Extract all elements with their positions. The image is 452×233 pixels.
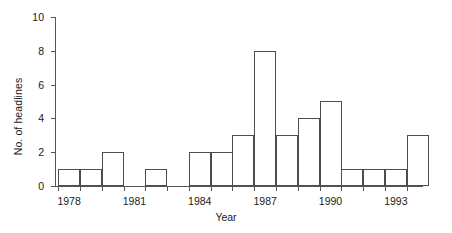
bars-group <box>56 17 422 186</box>
x-tick-mark <box>407 187 408 191</box>
plot-area: 0246810 197819811984198719901993 <box>56 17 422 186</box>
x-tick-label: 1984 <box>170 195 230 207</box>
y-tick-label: 4 <box>4 113 44 123</box>
x-tick-mark <box>276 187 277 191</box>
bar <box>407 135 429 186</box>
y-tick-label: 6 <box>4 80 44 90</box>
bar <box>320 101 342 186</box>
x-tick-mark <box>320 187 321 191</box>
x-tick-mark <box>80 187 81 191</box>
x-tick-label: 1993 <box>366 195 426 207</box>
x-tick-mark <box>385 187 386 191</box>
x-tick-mark <box>363 187 364 191</box>
x-tick-mark <box>341 187 342 191</box>
bar <box>385 169 407 186</box>
y-tick-mark <box>51 17 55 18</box>
y-tick-label: 2 <box>4 147 44 157</box>
x-tick-mark <box>254 187 255 191</box>
bar <box>145 169 167 186</box>
y-tick-mark <box>51 152 55 153</box>
x-tick-mark <box>58 187 59 191</box>
bar <box>58 169 80 186</box>
x-tick-mark <box>145 187 146 191</box>
y-tick-label: 8 <box>4 46 44 56</box>
bar <box>80 169 102 186</box>
y-tick-mark <box>51 85 55 86</box>
bar <box>276 135 298 186</box>
x-tick-mark <box>167 187 168 191</box>
x-tick-mark <box>102 187 103 191</box>
x-tick-mark <box>124 187 125 191</box>
bar <box>254 51 276 186</box>
x-axis-line <box>55 186 423 187</box>
bar <box>102 152 124 186</box>
bar <box>232 135 254 186</box>
bar <box>363 169 385 186</box>
bar <box>341 169 363 186</box>
y-tick-label: 0 <box>4 181 44 191</box>
x-tick-mark <box>298 187 299 191</box>
y-tick-mark <box>51 118 55 119</box>
x-tick-label: 1978 <box>39 195 99 207</box>
bar <box>211 152 233 186</box>
bar <box>298 118 320 186</box>
x-tick-label: 1990 <box>301 195 361 207</box>
y-tick-mark <box>51 51 55 52</box>
x-tick-mark <box>211 187 212 191</box>
x-tick-label: 1987 <box>235 195 295 207</box>
x-tick-mark <box>232 187 233 191</box>
y-tick-mark <box>51 186 55 187</box>
bar-chart: No. of headlines 0246810 197819811984198… <box>0 0 452 233</box>
x-axis-title: Year <box>0 211 452 223</box>
x-tick-mark <box>189 187 190 191</box>
bar <box>189 152 211 186</box>
x-tick-label: 1981 <box>104 195 164 207</box>
y-tick-label: 10 <box>4 12 44 22</box>
